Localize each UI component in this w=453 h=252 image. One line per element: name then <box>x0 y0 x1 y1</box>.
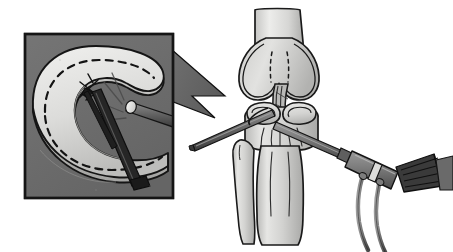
illustration-canvas <box>0 0 453 252</box>
magnified-arthroscopic-view <box>25 34 176 198</box>
illustration-figure: Arthroscopic meniscal repair of the knee… <box>0 0 453 252</box>
lateral-meniscus <box>283 102 316 124</box>
tibia-shaft <box>257 146 304 245</box>
